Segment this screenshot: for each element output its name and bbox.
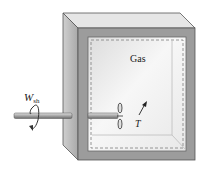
tank-side-face [63,13,78,160]
tank-top-face [63,13,195,28]
shaft-outer [14,113,72,119]
paddle-wheel-icon [117,103,123,129]
shaft-inner [88,113,118,119]
gas-label: Gas [130,53,146,64]
shaft-work-label: Wsh [24,91,40,105]
rigid-tank-diagram: Wsh Gas T [0,0,210,170]
